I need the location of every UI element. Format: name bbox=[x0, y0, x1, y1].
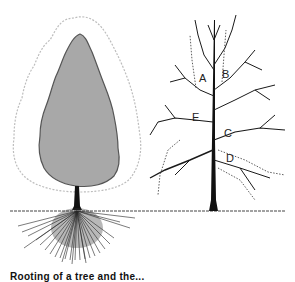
right-trunk bbox=[209, 20, 218, 211]
right-branches bbox=[150, 15, 285, 190]
label-b: B bbox=[222, 69, 229, 80]
label-a: A bbox=[199, 73, 206, 84]
shaded-crown bbox=[39, 34, 119, 187]
left-trunk bbox=[72, 186, 82, 210]
figure-caption: Rooting of a tree and the... bbox=[10, 271, 145, 282]
dotted-paths bbox=[158, 30, 285, 200]
label-e: E bbox=[192, 112, 199, 123]
root-mass bbox=[51, 208, 103, 248]
label-c: C bbox=[224, 128, 232, 139]
label-d: D bbox=[226, 153, 234, 164]
